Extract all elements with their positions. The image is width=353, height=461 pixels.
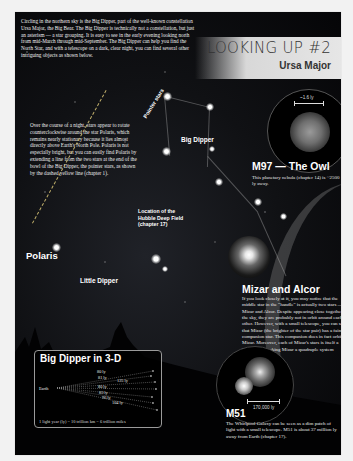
light-year-footnote: 1 light year (ly) = 10 trillion km = 6 t… <box>39 419 126 424</box>
big-dipper-3d-inset: Big Dipper in 3-D Earth 80 ly 81 ly 125 … <box>34 350 162 428</box>
hubble-deep-field-label: Location of the Hubble Deep Field (chapt… <box>138 208 188 228</box>
pointer-star-top <box>163 92 172 101</box>
intro-paragraph: Circling in the northern sky is the Big … <box>21 18 199 59</box>
mizar-title: Mizar and Alcor <box>242 283 320 295</box>
m51-title: M51 <box>226 408 245 419</box>
dipper-star <box>280 213 287 220</box>
m97-title: M97 — The Owl <box>252 160 330 172</box>
distance-label: 96 ly <box>102 395 111 400</box>
m51-description: The Whirlpool Galaxy can be seen as a di… <box>226 421 339 440</box>
dipper-star <box>215 178 223 186</box>
mizar-star <box>254 198 262 206</box>
m97-nebula <box>290 112 330 152</box>
dipper-star <box>209 146 215 152</box>
dipper-star <box>206 103 214 111</box>
distance-label: 80 ly <box>97 369 106 374</box>
m97-scale-bar <box>294 103 324 104</box>
little-dipper-star <box>151 254 161 264</box>
little-dipper-label: Little Dipper <box>80 277 118 284</box>
poster-subtitle: Ursa Major <box>279 60 331 71</box>
little-dipper-star <box>162 266 168 272</box>
polaris-label: Polaris <box>26 250 58 261</box>
mizar-alcor-inset <box>228 236 270 278</box>
looking-up-poster: LOOKING UP #2 Ursa Major Circling in the… <box>15 12 341 455</box>
distance-diagram <box>35 365 161 425</box>
companion-galaxy <box>235 377 253 395</box>
distance-label: 104 ly <box>112 400 123 405</box>
pointer-star-bottom <box>162 147 171 156</box>
distance-label: 80 ly <box>98 384 107 389</box>
m97-scale-text: ~1.6 ly <box>300 95 314 100</box>
m51-scale-bar <box>247 401 280 402</box>
poster-title: LOOKING UP #2 <box>207 39 331 57</box>
m51-scale-text: 170,000 ly <box>253 405 274 410</box>
m97-description: This planetary nebula (chapter 14) is ~2… <box>252 175 341 188</box>
distance-label: 81 ly <box>98 375 107 380</box>
big-dipper-3d-title: Big Dipper in 3-D <box>40 353 121 364</box>
big-dipper-label: Big Dipper <box>181 136 214 143</box>
earth-label: Earth <box>39 386 48 391</box>
distance-label: 125 ly <box>117 378 128 383</box>
